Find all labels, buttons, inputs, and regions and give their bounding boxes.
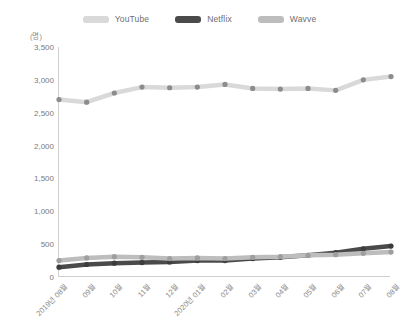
y-axis-tick-labels: 05001,0001,5002,0002,5003,0003,500 [18, 47, 54, 277]
x-tick-label: 06월 [328, 281, 347, 300]
x-tick-label: 12월 [162, 281, 181, 300]
data-point-marker [278, 86, 283, 91]
y-tick-label: 2,500 [20, 108, 54, 117]
x-tick-label: 11월 [135, 281, 153, 299]
x-tick-label: 09월 [79, 281, 98, 300]
x-tick-label: 03월 [245, 281, 264, 300]
x-tick-label: 05월 [300, 281, 319, 300]
data-point-marker [222, 82, 227, 87]
data-point-marker [56, 258, 61, 263]
data-point-marker [195, 255, 200, 260]
series-youtube [56, 74, 393, 105]
x-tick-label: 02월 [217, 281, 236, 300]
series-canvas [59, 47, 391, 277]
legend-swatch-youtube [83, 16, 109, 23]
series-line [59, 77, 391, 103]
data-point-marker [167, 85, 172, 90]
y-tick-label: 1,500 [20, 174, 54, 183]
data-point-marker [250, 255, 255, 260]
data-point-marker [56, 97, 61, 102]
data-point-marker [333, 88, 338, 93]
data-point-marker [139, 260, 144, 265]
chart-legend: YouTube Netflix Wavve [0, 14, 399, 24]
data-point-marker [167, 256, 172, 261]
data-point-marker [333, 252, 338, 257]
legend-swatch-wavve [258, 16, 284, 23]
y-tick-label: 0 [20, 273, 54, 282]
y-tick-label: 3,000 [20, 75, 54, 84]
data-point-marker [139, 255, 144, 260]
legend-swatch-netflix [175, 16, 201, 23]
data-point-marker [112, 254, 117, 259]
data-point-marker [305, 86, 310, 91]
legend-label-youtube: YouTube [115, 14, 149, 24]
data-point-marker [84, 262, 89, 267]
data-point-marker [388, 74, 393, 79]
data-point-marker [278, 254, 283, 259]
x-tick-label: 08월 [383, 281, 402, 300]
data-point-marker [112, 90, 117, 95]
data-point-marker [139, 84, 144, 89]
data-point-marker [361, 246, 366, 251]
data-point-marker [222, 256, 227, 261]
legend-label-netflix: Netflix [207, 14, 232, 24]
data-point-marker [56, 265, 61, 270]
data-point-marker [388, 249, 393, 254]
y-tick-label: 1,000 [20, 207, 54, 216]
data-point-marker [112, 261, 117, 266]
data-point-marker [250, 86, 255, 91]
data-point-marker [388, 244, 393, 249]
data-point-marker [361, 77, 366, 82]
legend-label-wavve: Wavve [290, 14, 316, 24]
y-tick-label: 2,000 [20, 141, 54, 150]
plot-area [58, 47, 390, 277]
legend-item-netflix: Netflix [175, 14, 232, 24]
x-axis-tick-labels: 2019년 08월09월10월11월12월2020년 01월02월03월04월0… [58, 279, 390, 336]
x-tick-label: 10월 [106, 281, 125, 300]
data-point-marker [305, 253, 310, 258]
data-point-marker [361, 251, 366, 256]
x-tick-label: 04월 [272, 281, 291, 300]
x-tick-label: 07월 [355, 281, 374, 300]
data-point-marker [84, 100, 89, 105]
y-tick-label: 3,500 [20, 43, 54, 52]
data-point-marker [84, 255, 89, 260]
legend-item-youtube: YouTube [83, 14, 149, 24]
legend-item-wavve: Wavve [258, 14, 316, 24]
x-tick-label: 2019년 08월 [33, 281, 70, 318]
data-point-marker [195, 84, 200, 89]
y-axis-unit-label: (명) [30, 30, 42, 41]
y-tick-label: 500 [20, 240, 54, 249]
